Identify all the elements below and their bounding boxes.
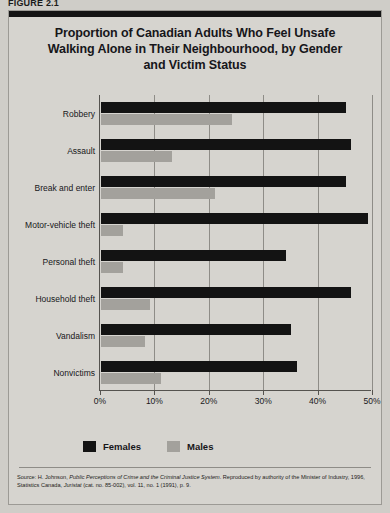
- x-axis-tick-label: 0%: [94, 396, 106, 406]
- gridline: [372, 95, 373, 390]
- bar-group: [101, 243, 371, 280]
- bar-females: [101, 250, 286, 261]
- legend-item-males: Males: [167, 441, 213, 452]
- source-title-2: Juristat: [64, 482, 82, 488]
- bar-males: [101, 151, 172, 162]
- figure-title-line-1: Proportion of Canadian Adults Who Feel U…: [29, 25, 361, 41]
- bar-group: [101, 95, 371, 132]
- category-label: Household theft: [35, 294, 95, 304]
- bar-group: [101, 317, 371, 354]
- x-axis-tick-label: 40%: [309, 396, 326, 406]
- figure-title-line-3: and Victim Status: [29, 57, 361, 73]
- bar-females: [101, 176, 346, 187]
- category-label: Motor-vehicle theft: [25, 220, 95, 230]
- source-divider: [19, 467, 371, 468]
- bar-males: [101, 188, 215, 199]
- legend-item-females: Females: [83, 441, 141, 452]
- source-note: Source: H. Johnson, Public Perceptions o…: [17, 473, 373, 489]
- source-suffix: (cat. no. 85-002), vol. 11, no. 1 (1991)…: [82, 482, 191, 488]
- figure-title-line-2: Walking Alone in Their Neighbourhood, by…: [29, 41, 361, 57]
- category-label: Nonvictims: [53, 368, 95, 378]
- chart-legend: FemalesMales: [21, 435, 371, 457]
- bar-group: [101, 132, 371, 169]
- bar-females: [101, 102, 346, 113]
- legend-label: Females: [103, 441, 141, 452]
- bar-females: [101, 324, 291, 335]
- figure-panel: Proportion of Canadian Adults Who Feel U…: [8, 10, 382, 505]
- x-axis-tick: [372, 390, 373, 395]
- figure-title: Proportion of Canadian Adults Who Feel U…: [29, 25, 361, 73]
- bar-males: [101, 225, 123, 236]
- legend-label: Males: [187, 441, 213, 452]
- x-axis-tick-label: 50%: [363, 396, 380, 406]
- figure-page: FIGURE 2.1 Proportion of Canadian Adults…: [0, 0, 390, 513]
- bar-males: [101, 336, 145, 347]
- bar-group: [101, 354, 371, 391]
- top-rule: [9, 11, 381, 17]
- bar-group: [101, 206, 371, 243]
- category-label: Vandalism: [56, 331, 95, 341]
- category-label: Robbery: [63, 109, 95, 119]
- bar-chart: RobberyAssaultBreak and enterMotor-vehic…: [21, 95, 371, 425]
- bar-group: [101, 280, 371, 317]
- legend-swatch-males: [167, 441, 180, 452]
- source-prefix: Source: H. Johnson,: [17, 474, 69, 480]
- figure-label: FIGURE 2.1: [8, 0, 59, 8]
- bar-males: [101, 373, 161, 384]
- bar-females: [101, 213, 368, 224]
- bar-group: [101, 169, 371, 206]
- category-axis-labels: RobberyAssaultBreak and enterMotor-vehic…: [21, 95, 99, 391]
- plot-area: 0%10%20%30%40%50%: [99, 95, 371, 391]
- x-axis-tick-label: 20%: [200, 396, 217, 406]
- bar-males: [101, 262, 123, 273]
- bar-females: [101, 287, 351, 298]
- x-axis-tick-label: 30%: [255, 396, 272, 406]
- category-label: Break and enter: [35, 183, 95, 193]
- bar-males: [101, 299, 150, 310]
- plot-area-wrapper: RobberyAssaultBreak and enterMotor-vehic…: [21, 95, 371, 400]
- bar-females: [101, 139, 351, 150]
- bar-males: [101, 114, 232, 125]
- legend-swatch-females: [83, 441, 96, 452]
- category-label: Personal theft: [43, 257, 95, 267]
- category-label: Assault: [67, 146, 95, 156]
- source-title-1: Public Perceptions of Crime and the Crim…: [69, 474, 219, 480]
- x-axis-tick-label: 10%: [146, 396, 163, 406]
- bar-females: [101, 361, 297, 372]
